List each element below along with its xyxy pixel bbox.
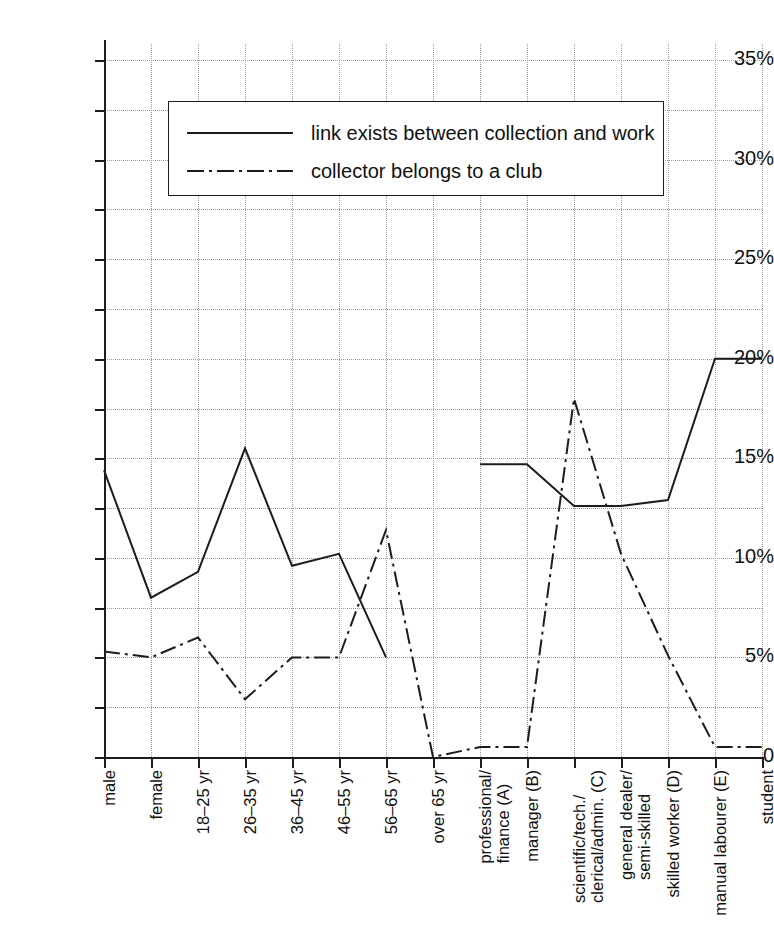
x-tick (621, 757, 623, 768)
y-tick (95, 309, 105, 311)
y-tick (95, 359, 105, 361)
y-axis-tick-label: 30% (688, 147, 774, 170)
y-axis (104, 40, 106, 759)
y-tick (95, 458, 105, 460)
gridline-horizontal (104, 409, 762, 410)
gridline-horizontal (104, 657, 762, 658)
x-label-line: student (758, 770, 774, 824)
gridline-horizontal (104, 209, 762, 210)
gridline-horizontal (104, 508, 762, 509)
x-label-line: semi-skilled (635, 770, 653, 880)
legend-swatch-solid-icon (187, 126, 293, 140)
gridline-vertical (151, 44, 152, 757)
x-tick (198, 757, 200, 768)
x-tick (762, 757, 764, 768)
x-tick (668, 757, 670, 768)
x-tick (386, 757, 388, 768)
legend-item-club-member: collector belongs to a club (169, 154, 663, 188)
x-label-line: finance (A) (494, 770, 512, 864)
x-tick (715, 757, 717, 768)
x-label-line: scientific/tech./ (570, 770, 588, 903)
y-axis-tick-label: 20% (688, 346, 774, 369)
x-label-line: clerical/admin. (C) (588, 770, 606, 903)
y-tick (95, 657, 105, 659)
y-axis-tick-label: 5% (688, 644, 774, 667)
x-label-line: female (147, 770, 165, 820)
y-tick (95, 508, 105, 510)
y-tick (95, 60, 105, 62)
x-tick (292, 757, 294, 768)
y-tick (95, 608, 105, 610)
x-label-line: skilled worker (D) (664, 770, 682, 897)
gridline-horizontal (104, 60, 762, 61)
x-label-line: manual labourer (E) (711, 770, 729, 916)
gridline-horizontal (104, 707, 762, 708)
x-label-line: 56–65 yr (382, 770, 400, 834)
x-tick (245, 757, 247, 768)
gridline-vertical (668, 44, 669, 757)
gridline-horizontal (104, 259, 762, 260)
y-axis-tick-label: 25% (688, 246, 774, 269)
y-axis-tick-label: 15% (688, 445, 774, 468)
x-tick (339, 757, 341, 768)
x-label-line: 18–25 yr (194, 770, 212, 834)
legend-swatch-dashdot-icon (187, 164, 293, 178)
y-tick (95, 409, 105, 411)
x-label-line: over 65 yr (429, 770, 447, 843)
gridline-horizontal (104, 309, 762, 310)
gridline-horizontal (104, 608, 762, 609)
x-tick (480, 757, 482, 768)
gridline-horizontal (104, 359, 762, 360)
y-tick (95, 707, 105, 709)
chart-legend: link exists between collection and work … (168, 101, 664, 196)
chart-figure: 05%10%15%20%25%30%35% malefemale18–25 yr… (0, 0, 774, 948)
x-label-line: male (100, 770, 118, 806)
x-tick (104, 757, 106, 768)
y-axis-tick-label: 10% (688, 545, 774, 568)
y-axis-tick-label: 35% (688, 47, 774, 70)
x-label-line: professional/ (476, 770, 494, 864)
x-tick (574, 757, 576, 768)
chart-title-clipped (0, 0, 774, 4)
x-tick (527, 757, 529, 768)
legend-item-link-exists: link exists between collection and work (169, 116, 663, 150)
y-tick (95, 160, 105, 162)
legend-label-0: link exists between collection and work (311, 122, 655, 145)
y-tick (95, 558, 105, 560)
y-tick (95, 259, 105, 261)
y-tick (95, 110, 105, 112)
x-label-line: 26–35 yr (241, 770, 259, 834)
y-tick (95, 209, 105, 211)
x-tick (433, 757, 435, 768)
x-tick (151, 757, 153, 768)
x-label-line: 36–45 yr (288, 770, 306, 834)
gridline-horizontal (104, 458, 762, 459)
legend-label-1: collector belongs to a club (311, 160, 542, 183)
x-label-line: 46–55 yr (335, 770, 353, 834)
x-label-line: general dealer/ (617, 770, 635, 880)
x-label-line: manager (B) (523, 770, 541, 862)
dashdot-swatch-svg (187, 164, 293, 178)
gridline-horizontal (104, 558, 762, 559)
